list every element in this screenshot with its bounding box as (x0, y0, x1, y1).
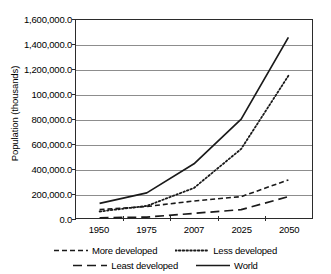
chart-legend: More developedLess developed Least devel… (0, 243, 331, 273)
legend-item-world[interactable]: World (196, 260, 258, 271)
y-tick-mark (72, 219, 76, 220)
x-tick-mark (123, 216, 124, 221)
y-tick-label: 1,200,000.0 (0, 64, 72, 75)
legend-swatch (196, 261, 230, 270)
series-lines (76, 20, 312, 218)
x-tick-mark (265, 216, 266, 221)
y-tick-label: 1,400,000.0 (0, 39, 72, 50)
x-tick-label: 2025 (231, 224, 251, 235)
legend-item-less-developed[interactable]: Less developed (175, 245, 277, 256)
legend-item-more-developed[interactable]: More developed (54, 245, 157, 256)
legend-label: Least developed (111, 260, 178, 271)
series-line-less-developed (100, 76, 289, 212)
legend-row-top: More developedLess developed (0, 243, 331, 258)
y-tick-label: 600,000.0 (0, 139, 72, 150)
legend-swatch (54, 246, 88, 255)
y-tick-label: 400,000.0 (0, 164, 72, 175)
y-tick-label: 800,000.0 (0, 114, 72, 125)
legend-label: World (234, 260, 258, 271)
y-tick-label: 100,000.0 (0, 89, 72, 100)
y-tick-label: 0.0 (0, 214, 72, 225)
legend-label: More developed (92, 245, 157, 256)
y-axis-tick-labels: 1,600,000.01,400,000.01,200,000.0100,000… (0, 19, 72, 219)
x-tick-mark (218, 216, 219, 221)
legend-label: Less developed (213, 245, 277, 256)
x-tick-label: 1950 (89, 224, 109, 235)
legend-swatch (73, 261, 107, 270)
legend-swatch (175, 246, 209, 255)
population-growth-chart: Population (thousands) 1,600,000.01,400,… (0, 0, 331, 274)
plot-area (75, 19, 313, 219)
x-tick-label: 2007 (184, 224, 204, 235)
x-tick-label: 1975 (136, 224, 156, 235)
legend-row-bottom: Least developedWorld (0, 258, 331, 273)
x-tick-mark (170, 216, 171, 221)
x-tick-label: 2050 (279, 224, 299, 235)
legend-item-least-developed[interactable]: Least developed (73, 260, 178, 271)
x-axis-tick-labels: 19501975200720252050 (75, 221, 313, 237)
y-tick-label: 1,600,000.0 (0, 14, 72, 25)
y-tick-label: 200,000.0 (0, 189, 72, 200)
